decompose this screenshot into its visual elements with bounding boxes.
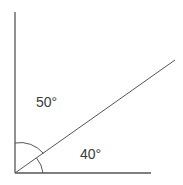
upper-angle-arc bbox=[15, 143, 44, 154]
lower-angle-label: 40° bbox=[80, 147, 101, 161]
upper-angle-label: 50° bbox=[36, 95, 57, 109]
lower-angle-arc bbox=[37, 158, 44, 173]
angle-diagram: 50° 40° bbox=[0, 0, 183, 185]
